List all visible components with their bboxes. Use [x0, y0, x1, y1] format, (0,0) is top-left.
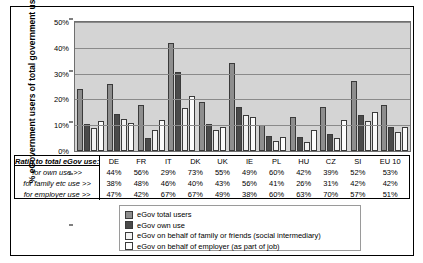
ratio-table-cell: 39% — [317, 167, 344, 178]
legend-item: eGov on behalf of employer (as part of j… — [125, 241, 355, 251]
ratio-table-cell: 47% — [100, 189, 128, 200]
plot-area — [74, 21, 411, 152]
bar — [182, 108, 188, 151]
y-tick-mark — [69, 122, 73, 123]
legend-label: eGov own use — [137, 221, 185, 230]
bar — [77, 89, 83, 151]
ratio-table-cell: 31% — [317, 178, 344, 189]
bar-group — [258, 22, 288, 151]
y-tick-label: 20% — [54, 95, 69, 104]
ratio-table-cell: 67% — [155, 189, 182, 200]
bar-group — [288, 22, 318, 151]
table-row: for family etc use >>38%48%46%40%43%56%4… — [15, 178, 409, 189]
ratio-table-cell: 60% — [263, 189, 290, 200]
ratio-table-cell: 43% — [209, 178, 236, 189]
bar — [152, 130, 158, 151]
gridline — [75, 48, 410, 49]
ratio-table-cell: 55% — [209, 167, 236, 178]
ratio-table-cell: 40% — [182, 178, 209, 189]
gridline — [75, 74, 410, 75]
bar — [358, 115, 364, 151]
bar — [84, 124, 90, 151]
ratio-table-column-header: IT — [155, 156, 182, 167]
ratio-table-cell: 53% — [371, 167, 409, 178]
y-tick-mark — [69, 70, 73, 71]
ratio-table-column-header: DK — [182, 156, 209, 167]
bar-group — [197, 22, 227, 151]
ratio-table-row-label: for employer use >> — [15, 189, 100, 200]
ratio-table-header-label: Ratio to total eGov use: — [15, 156, 100, 167]
ratio-table-column-header: EU 10 — [371, 156, 409, 167]
legend-label: eGov on behalf of employer (as part of j… — [137, 242, 280, 251]
y-tick-label: 30% — [54, 69, 69, 78]
y-tick-label: 40% — [54, 43, 69, 52]
ratio-table-cell: 38% — [236, 189, 263, 200]
bar — [304, 142, 310, 151]
bar — [91, 128, 97, 151]
ratio-table-column-header: DE — [100, 156, 128, 167]
legend-label: eGov total users — [137, 210, 192, 219]
legend-label: eGov on behalf of family or friends (soc… — [137, 231, 321, 240]
y-axis-tick-labels: 0%10%20%30%40%50% — [39, 21, 72, 152]
ratio-table-cell: 44% — [100, 167, 128, 178]
bar — [381, 105, 387, 151]
bar-group — [136, 22, 166, 151]
ratio-table-cell: 57% — [344, 189, 371, 200]
ratio-table-column-header: UK — [209, 156, 236, 167]
ratio-table-cell: 29% — [155, 167, 182, 178]
bar — [351, 81, 357, 151]
ratio-table-cell: 42% — [344, 178, 371, 189]
ratio-table-column-header: CZ — [317, 156, 344, 167]
ratio-table-cell: 60% — [263, 167, 290, 178]
bar — [402, 127, 408, 152]
bar-group — [349, 22, 379, 151]
ratio-table-cell: 49% — [236, 167, 263, 178]
bar-group — [105, 22, 135, 151]
bar — [138, 105, 144, 151]
bar — [229, 63, 235, 151]
bar — [320, 107, 326, 151]
ratio-table-cell: 42% — [128, 189, 155, 200]
chart-frame: % eGovernment users of total government … — [10, 6, 414, 256]
ratio-table-column-header: SI — [344, 156, 371, 167]
gridline — [75, 22, 410, 23]
bar — [145, 138, 151, 151]
bar — [311, 130, 317, 151]
bar — [297, 137, 303, 151]
bar — [259, 125, 265, 151]
ratio-table-body: Ratio to total eGov use:DEFRITDKUKIEPLHU… — [15, 156, 409, 200]
legend-item: eGov on behalf of family or friends (soc… — [125, 231, 355, 241]
bar — [243, 115, 249, 151]
ratio-table-cell: 63% — [290, 189, 317, 200]
ratio-table-cell: 48% — [128, 178, 155, 189]
y-tick-label: 50% — [54, 18, 69, 27]
ratio-table-inner: Ratio to total eGov use:DEFRITDKUKIEPLHU… — [15, 156, 409, 200]
y-tick-mark — [69, 225, 73, 226]
legend-swatch — [125, 211, 133, 219]
bar — [395, 132, 401, 151]
ratio-table-cell: 73% — [182, 167, 209, 178]
ratio-table-cell: 42% — [290, 167, 317, 178]
ratio-table-row-label: for own use >> — [15, 167, 100, 178]
ratio-table-cell: 56% — [128, 167, 155, 178]
gridline — [75, 125, 410, 126]
bar — [168, 43, 174, 151]
bar-groups — [75, 22, 410, 151]
bar — [213, 130, 219, 151]
ratio-table-header-row: Ratio to total eGov use:DEFRITDKUKIEPLHU… — [15, 156, 409, 167]
ratio-table-column-header: HU — [290, 156, 317, 167]
legend-item: eGov own use — [125, 220, 355, 230]
ratio-table-cell: 42% — [371, 178, 409, 189]
bar-group — [75, 22, 105, 151]
legend-swatch — [125, 242, 133, 250]
chart-legend: eGov total userseGov own useeGov on beha… — [119, 205, 361, 251]
gridline — [75, 99, 410, 100]
bar — [128, 123, 134, 151]
bar — [290, 117, 296, 151]
ratio-table-cell: 51% — [371, 189, 409, 200]
ratio-table-cell: 67% — [182, 189, 209, 200]
ratio-table-row-label: for family etc use >> — [15, 178, 100, 189]
bar — [121, 119, 127, 151]
bar-group — [166, 22, 196, 151]
y-tick-label: 10% — [54, 121, 69, 130]
